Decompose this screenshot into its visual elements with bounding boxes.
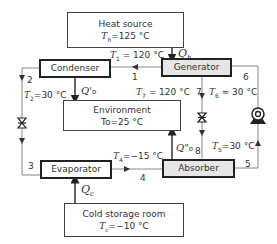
heat-source-box: Heat source Th=125 °C bbox=[67, 12, 184, 48]
evaporator-title: Evaporator bbox=[51, 164, 101, 174]
pump-icon bbox=[250, 108, 266, 124]
heat-source-temp: Th=125 °C bbox=[68, 30, 183, 46]
expansion-valve-left-icon bbox=[18, 118, 26, 128]
heat-source-title: Heat source bbox=[68, 18, 183, 30]
environment-box: Environment To=25 °C bbox=[63, 100, 181, 131]
absorber-box: Absorber bbox=[162, 159, 235, 178]
label-Qc: Qc bbox=[81, 185, 94, 199]
condenser-title: Condenser bbox=[51, 63, 99, 73]
label-Q0-double-prime: Q"o bbox=[176, 143, 193, 154]
state-3: 3 bbox=[28, 161, 34, 171]
state-1: 1 bbox=[132, 72, 138, 82]
cold-storage-box: Cold storage room Tc=−10 °C bbox=[64, 203, 184, 237]
generator-title: Generator bbox=[174, 62, 220, 72]
label-T2: T2=30 °C bbox=[24, 90, 66, 104]
environment-title: Environment bbox=[64, 104, 180, 116]
state-4: 4 bbox=[140, 173, 146, 183]
label-Qh: Qh bbox=[178, 49, 192, 63]
absorber-title: Absorber bbox=[178, 163, 219, 173]
state-7: 7 bbox=[196, 87, 202, 97]
state-5: 5 bbox=[245, 159, 251, 169]
label-T5: T5=30 °C bbox=[212, 141, 254, 155]
label-T7: T7 = 120 °C bbox=[136, 87, 190, 101]
label-Q0-prime: Q'o bbox=[81, 86, 96, 97]
label-T4: T4=−15 °C bbox=[113, 151, 163, 165]
cold-storage-title: Cold storage room bbox=[65, 208, 183, 220]
state-2: 2 bbox=[27, 75, 33, 85]
state-8: 8 bbox=[195, 146, 201, 156]
condenser-box: Condenser bbox=[39, 59, 111, 78]
evaporator-box: Evaporator bbox=[40, 160, 112, 179]
expansion-valve-right-icon bbox=[198, 113, 206, 122]
generator-box: Generator bbox=[161, 58, 232, 77]
cold-storage-temp: Tc=−10 °C bbox=[65, 220, 183, 236]
state-6: 6 bbox=[243, 72, 249, 82]
label-T6: T6 ≈ 30 °C bbox=[209, 87, 257, 101]
label-T1: T1 = 120 °C bbox=[110, 50, 164, 64]
environment-temp: To=25 °C bbox=[64, 116, 180, 128]
